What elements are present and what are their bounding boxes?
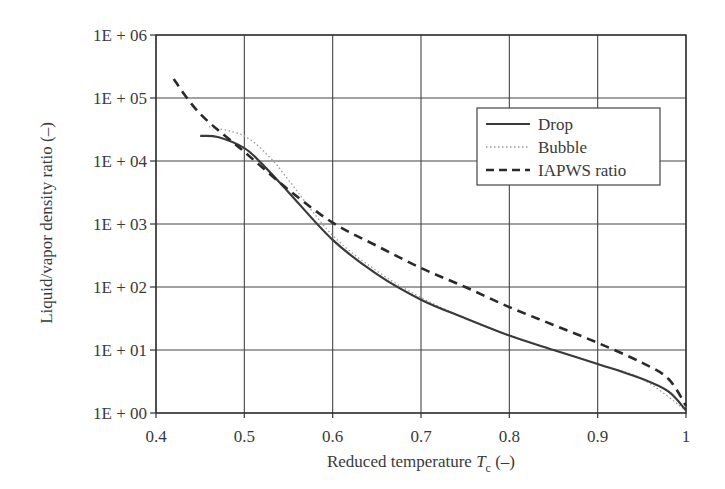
x-tick-label: 0.9 (587, 427, 608, 446)
y-tick-labels: 1E + 001E + 011E + 021E + 031E + 041E + … (93, 26, 147, 423)
x-tick-label: 0.8 (499, 427, 520, 446)
y-tick-label: 1E + 01 (93, 341, 147, 360)
legend: Drop Bubble IAPWS ratio (477, 108, 660, 185)
x-tick-label: 0.7 (410, 427, 432, 446)
y-tick-label: 1E + 04 (93, 152, 147, 171)
x-tick-label: 0.6 (322, 427, 343, 446)
y-axis-title: Liquid/vapor density ratio (–) (37, 122, 56, 324)
axes (150, 35, 686, 418)
legend-label-bubble: Bubble (538, 138, 587, 157)
y-tick-label: 1E + 02 (93, 278, 147, 297)
legend-label-iapws: IAPWS ratio (538, 161, 626, 180)
x-tick-label: 1 (682, 427, 691, 446)
chart: 1E + 001E + 011E + 021E + 031E + 041E + … (0, 0, 725, 489)
legend-label-drop: Drop (538, 115, 573, 134)
grid-lines (156, 35, 686, 413)
y-tick-label: 1E + 00 (93, 404, 147, 423)
y-tick-label: 1E + 06 (93, 26, 147, 45)
x-tick-label: 0.5 (234, 427, 255, 446)
x-axis-title: Reduced temperature Tc (–) (327, 452, 515, 475)
x-tick-labels: 0.40.50.60.70.80.91 (145, 427, 690, 446)
x-tick-label: 0.4 (145, 427, 167, 446)
y-tick-label: 1E + 03 (93, 215, 147, 234)
y-tick-label: 1E + 05 (93, 89, 147, 108)
